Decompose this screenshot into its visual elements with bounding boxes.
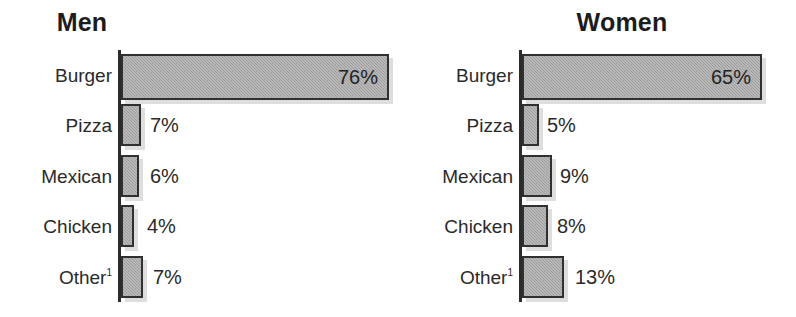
bar-container-other-women xyxy=(522,256,564,298)
footnote-marker-women: 1 xyxy=(507,267,513,278)
bar-other-women xyxy=(522,256,564,298)
category-label-other-women: Other1 xyxy=(400,268,513,287)
category-label-text: Burger xyxy=(55,65,112,86)
plot-area-men: Burger 76% Pizza 7% Mexican xyxy=(0,50,400,302)
panel-title-women: Women xyxy=(424,8,796,37)
bar-chicken-women xyxy=(522,205,548,247)
bar-value-pizza-women: 5% xyxy=(547,115,576,135)
bar-row: Chicken 8% xyxy=(400,201,796,251)
category-label-other-men: Other1 xyxy=(0,268,112,287)
bar-container-burger-women: 65% xyxy=(522,54,762,96)
bar-row: Pizza 5% xyxy=(400,100,796,150)
category-axis-women xyxy=(519,50,522,302)
category-label-mexican-men: Mexican xyxy=(0,167,112,186)
category-label-text: Mexican xyxy=(442,166,513,187)
bar-container-chicken-men xyxy=(121,205,134,247)
chart-figure: Men Burger 76% Pizza 7% xyxy=(0,0,796,317)
chart-panel-women: Women Burger 65% Pizza 5 xyxy=(400,0,796,317)
bar-container-chicken-women xyxy=(522,205,548,247)
bar-row: Burger 65% xyxy=(400,50,796,100)
bar-value-mexican-men: 6% xyxy=(150,166,179,186)
bar-container-mexican-men xyxy=(121,155,139,197)
bar-value-chicken-men: 4% xyxy=(147,216,176,236)
bar-row: Burger 76% xyxy=(0,50,400,100)
category-label-pizza-men: Pizza xyxy=(0,116,112,135)
bar-rows-women: Burger 65% Pizza 5% Mexican xyxy=(400,50,796,302)
category-label-text: Other xyxy=(59,267,107,288)
bar-row: Mexican 9% xyxy=(400,151,796,201)
bar-row: Other1 13% xyxy=(400,252,796,302)
category-label-text: Chicken xyxy=(444,216,513,237)
category-label-text: Pizza xyxy=(66,115,112,136)
bar-pizza-women xyxy=(522,104,539,146)
bar-value-other-men: 7% xyxy=(153,267,182,287)
panel-title-men: Men xyxy=(0,8,282,37)
category-label-text: Mexican xyxy=(41,166,112,187)
bar-container-pizza-men xyxy=(121,104,141,146)
bar-burger-women: 65% xyxy=(522,54,762,100)
plot-area-women: Burger 65% Pizza 5% Mexican xyxy=(400,50,796,302)
bar-value-burger-women: 65% xyxy=(711,67,751,87)
bar-value-pizza-men: 7% xyxy=(150,115,179,135)
chart-panel-men: Men Burger 76% Pizza 7% xyxy=(0,0,400,317)
category-label-chicken-men: Chicken xyxy=(0,217,112,236)
category-label-pizza-women: Pizza xyxy=(400,116,513,135)
bar-pizza-men xyxy=(121,104,141,146)
bar-container-burger-men: 76% xyxy=(121,54,389,96)
category-label-burger-men: Burger xyxy=(0,66,112,85)
bar-row: Chicken 4% xyxy=(0,201,400,251)
bar-container-other-men xyxy=(121,256,143,298)
bar-mexican-women xyxy=(522,155,552,197)
bar-container-pizza-women xyxy=(522,104,539,146)
category-label-text: Burger xyxy=(456,65,513,86)
bar-value-other-women: 13% xyxy=(575,267,615,287)
category-axis-men xyxy=(118,50,121,302)
category-label-burger-women: Burger xyxy=(400,66,513,85)
bar-mexican-men xyxy=(121,155,139,197)
bar-other-men xyxy=(121,256,143,298)
bar-row: Other1 7% xyxy=(0,252,400,302)
category-label-text: Pizza xyxy=(467,115,513,136)
bar-row: Mexican 6% xyxy=(0,151,400,201)
footnote-marker-men: 1 xyxy=(106,267,112,278)
category-label-text: Chicken xyxy=(43,216,112,237)
bar-container-mexican-women xyxy=(522,155,552,197)
category-label-text: Other xyxy=(460,267,508,288)
bar-value-burger-men: 76% xyxy=(338,67,378,87)
bar-value-chicken-women: 8% xyxy=(557,216,586,236)
bar-rows-men: Burger 76% Pizza 7% Mexican xyxy=(0,50,400,302)
bar-burger-men: 76% xyxy=(121,54,389,100)
bar-row: Pizza 7% xyxy=(0,100,400,150)
bar-chicken-men xyxy=(121,205,134,247)
category-label-mexican-women: Mexican xyxy=(400,167,513,186)
category-label-chicken-women: Chicken xyxy=(400,217,513,236)
bar-value-mexican-women: 9% xyxy=(560,166,589,186)
